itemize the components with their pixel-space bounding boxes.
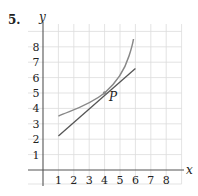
svg-text:4: 4 bbox=[101, 174, 108, 187]
svg-text:8: 8 bbox=[163, 174, 170, 187]
svg-text:3: 3 bbox=[86, 174, 93, 187]
svg-text:1: 1 bbox=[33, 149, 40, 162]
svg-text:2: 2 bbox=[70, 174, 77, 187]
problem-number: 5. bbox=[8, 13, 21, 27]
svg-text:7: 7 bbox=[33, 56, 40, 69]
svg-text:7: 7 bbox=[147, 174, 154, 187]
x-axis-label: x bbox=[186, 163, 193, 177]
svg-text:5: 5 bbox=[33, 87, 40, 100]
svg-text:2: 2 bbox=[33, 133, 40, 146]
tangent-line bbox=[58, 68, 135, 136]
svg-text:3: 3 bbox=[33, 118, 40, 131]
graph: 5. y x 1 2 3 4 5 6 7 8 1 2 bbox=[0, 0, 198, 196]
x-tick-labels: 1 2 3 4 5 6 7 8 bbox=[55, 174, 170, 187]
svg-text:1: 1 bbox=[55, 174, 62, 187]
svg-text:6: 6 bbox=[132, 174, 139, 187]
grid bbox=[28, 24, 182, 184]
y-tick-labels: 1 2 3 4 5 6 7 8 bbox=[33, 41, 40, 162]
svg-text:6: 6 bbox=[33, 72, 40, 85]
y-axis-label: y bbox=[38, 10, 46, 24]
svg-text:8: 8 bbox=[33, 41, 40, 54]
svg-text:4: 4 bbox=[33, 102, 40, 115]
point-p-label: P bbox=[108, 90, 118, 104]
point-p-marker bbox=[103, 91, 107, 95]
svg-text:5: 5 bbox=[117, 174, 124, 187]
